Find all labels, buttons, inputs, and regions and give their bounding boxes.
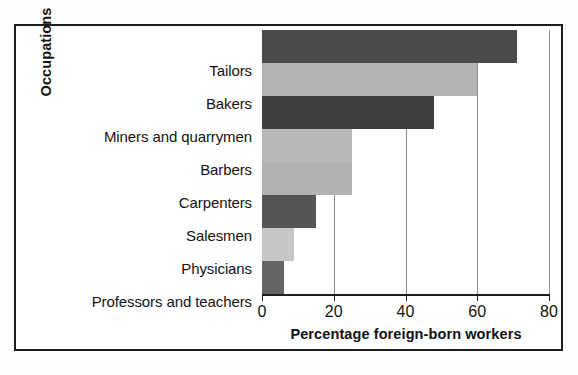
x-axis-tick-label: 80 — [540, 303, 558, 321]
x-axis-tick-labels: 020406080 — [16, 303, 561, 327]
bar[interactable] — [262, 228, 294, 261]
bar[interactable] — [262, 195, 316, 228]
x-axis-title: Percentage foreign-born workers — [262, 326, 550, 342]
category-label: Tailors — [46, 54, 258, 87]
bar[interactable] — [262, 30, 517, 63]
category-label: Physicians — [46, 252, 258, 285]
chart-page: Occupations TailorsBakersMiners and quar… — [0, 0, 578, 375]
bar-row — [262, 129, 549, 162]
cropped-title-fragment — [40, 0, 360, 4]
bar-row — [262, 96, 549, 129]
bar-row — [262, 162, 549, 195]
x-axis-tick-label: 0 — [258, 303, 267, 321]
bar[interactable] — [262, 129, 352, 162]
x-axis-tick — [549, 294, 550, 301]
x-axis-tick-label: 60 — [468, 303, 486, 321]
x-axis-tick — [477, 294, 478, 301]
x-axis-tick — [334, 294, 335, 301]
bar-row — [262, 30, 549, 63]
category-label: Barbers — [46, 153, 258, 186]
category-label: Bakers — [46, 87, 258, 120]
bar-row — [262, 63, 549, 96]
bar-row — [262, 195, 549, 228]
chart-frame: Occupations TailorsBakersMiners and quar… — [14, 24, 563, 351]
bar[interactable] — [262, 96, 434, 129]
bar-row — [262, 228, 549, 261]
bar[interactable] — [262, 162, 352, 195]
x-axis-tick-label: 20 — [325, 303, 343, 321]
bar-row — [262, 261, 549, 294]
x-axis-tick — [406, 294, 407, 301]
bar[interactable] — [262, 63, 477, 96]
category-label: Carpenters — [46, 186, 258, 219]
x-axis-tick-label: 40 — [397, 303, 415, 321]
x-axis-tick — [262, 294, 263, 301]
category-label: Salesmen — [46, 219, 258, 252]
y-axis-category-labels: TailorsBakersMiners and quarrymenBarbers… — [46, 54, 258, 318]
plot-area — [262, 30, 549, 294]
category-label: Miners and quarrymen — [46, 120, 258, 153]
gridline — [549, 30, 550, 294]
bar[interactable] — [262, 261, 284, 294]
